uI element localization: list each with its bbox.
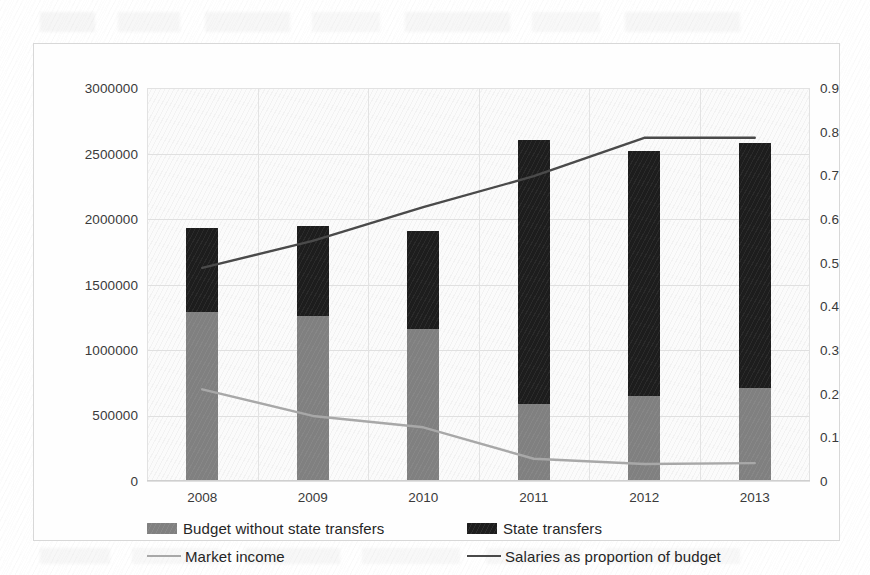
legend-label: Market income <box>185 548 285 565</box>
right-axis: 0.9 0.8 0.7 0.6 0.5 0.4 0.3 0.2 0.1 0 <box>820 88 870 481</box>
legend-row: Budget without state transfers State tra… <box>147 514 847 542</box>
left-axis: 3000000 2500000 2000000 1500000 1000000 … <box>34 88 138 481</box>
legend-swatch-icon <box>467 523 497 534</box>
right-axis-tick: 0.5 <box>820 255 870 270</box>
right-axis-tick: 0 <box>820 474 870 489</box>
line-series <box>202 138 755 268</box>
legend-swatch-icon <box>147 523 177 534</box>
plot-area <box>147 88 810 481</box>
line-series <box>202 389 755 464</box>
right-axis-tick: 0.7 <box>820 168 870 183</box>
x-axis-tick: 2012 <box>589 490 699 505</box>
legend-item-budget-without-state-transfers: Budget without state transfers <box>147 520 467 537</box>
right-axis-tick: 0.2 <box>820 386 870 401</box>
left-axis-tick: 0 <box>38 474 138 489</box>
right-axis-tick: 0.4 <box>820 299 870 314</box>
gridline-horizontal <box>147 481 810 482</box>
right-axis-tick: 0.9 <box>820 81 870 96</box>
right-axis-tick: 0.1 <box>820 430 870 445</box>
x-axis-tick: 2011 <box>479 490 589 505</box>
left-axis-tick: 1500000 <box>38 277 138 292</box>
legend-line-icon <box>147 555 181 557</box>
legend-label: Salaries as proportion of budget <box>505 548 721 565</box>
x-axis-tick: 2010 <box>368 490 478 505</box>
legend-row: Market income Salaries as proportion of … <box>147 542 847 570</box>
legend-line-icon <box>467 555 501 557</box>
legend-item-salaries-as-proportion-of-budget: Salaries as proportion of budget <box>467 548 827 565</box>
left-axis-tick: 500000 <box>38 408 138 423</box>
legend-label: State transfers <box>503 520 602 537</box>
left-axis-tick: 3000000 <box>38 81 138 96</box>
right-axis-tick: 0.8 <box>820 124 870 139</box>
chart-container: 3000000 2500000 2000000 1500000 1000000 … <box>33 43 840 541</box>
right-axis-tick: 0.3 <box>820 343 870 358</box>
left-axis-tick: 2500000 <box>38 146 138 161</box>
line-series-layer <box>147 88 810 481</box>
x-axis-tick: 2008 <box>147 490 257 505</box>
chart-legend: Budget without state transfers State tra… <box>147 514 847 570</box>
legend-item-market-income: Market income <box>147 548 467 565</box>
right-axis-tick: 0.6 <box>820 211 870 226</box>
x-axis-tick: 2013 <box>700 490 810 505</box>
legend-label: Budget without state transfers <box>183 520 384 537</box>
legend-item-state-transfers: State transfers <box>467 520 827 537</box>
left-axis-tick: 2000000 <box>38 211 138 226</box>
left-axis-tick: 1000000 <box>38 343 138 358</box>
scan-artifact-top <box>40 12 830 32</box>
x-axis-baseline <box>147 480 810 481</box>
x-axis-tick: 2009 <box>258 490 368 505</box>
